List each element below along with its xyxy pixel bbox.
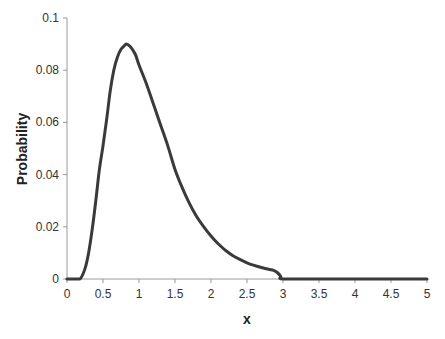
y-tick-label: 0.04: [36, 168, 60, 182]
probability-curve: [67, 44, 427, 279]
x-axis-title: x: [243, 311, 251, 327]
x-tick-label: 0.5: [95, 287, 112, 301]
y-axis-title: Probability: [14, 113, 30, 186]
x-tick-label: 1: [136, 287, 143, 301]
x-axis: 00.511.522.533.544.55: [64, 279, 431, 301]
probability-line-chart: 00.020.040.060.080.1 00.511.522.533.544.…: [0, 0, 445, 339]
y-tick-label: 0.1: [42, 11, 59, 25]
x-tick-label: 2: [208, 287, 215, 301]
x-tick-label: 4.5: [383, 287, 400, 301]
x-tick-label: 3: [280, 287, 287, 301]
y-tick-label: 0.08: [36, 63, 60, 77]
x-tick-label: 5: [424, 287, 431, 301]
y-tick-label: 0.02: [36, 220, 60, 234]
y-axis: 00.020.040.060.080.1: [36, 11, 67, 286]
y-tick-label: 0.06: [36, 115, 60, 129]
x-tick-label: 1.5: [167, 287, 184, 301]
x-tick-label: 0: [64, 287, 71, 301]
x-tick-label: 3.5: [311, 287, 328, 301]
y-tick-label: 0: [52, 272, 59, 286]
x-tick-label: 4: [352, 287, 359, 301]
x-tick-label: 2.5: [239, 287, 256, 301]
